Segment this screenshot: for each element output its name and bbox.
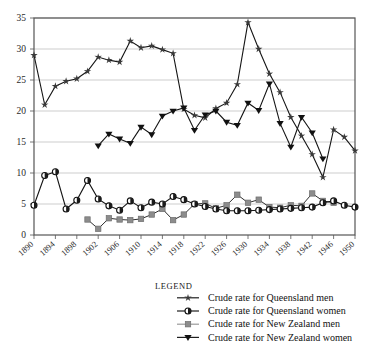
data-point <box>85 217 90 222</box>
x-tick-label-1942: 1942 <box>294 239 313 258</box>
series-star <box>30 18 358 180</box>
data-point <box>138 216 143 221</box>
x-tick-label-1930: 1930 <box>230 239 249 258</box>
data-point <box>235 192 240 197</box>
data-point <box>287 145 294 151</box>
data-point <box>234 80 241 87</box>
data-point <box>309 130 316 136</box>
data-point <box>106 216 111 221</box>
x-axis: 1890189418981902190619101914191819221926… <box>16 235 356 258</box>
data-point <box>276 89 283 96</box>
y-tick-label-5: 5 <box>21 199 26 209</box>
x-tick-label-1910: 1910 <box>123 239 142 258</box>
data-point <box>255 45 262 52</box>
data-point <box>148 132 155 138</box>
data-point <box>266 81 273 87</box>
series-line-star <box>34 22 355 177</box>
data-point <box>308 151 315 158</box>
data-point <box>234 123 241 129</box>
data-point <box>73 75 80 82</box>
data-point <box>41 101 48 108</box>
x-tick-label-1894: 1894 <box>37 239 57 258</box>
y-tick-label-0: 0 <box>21 230 26 240</box>
data-point <box>191 111 198 118</box>
legend-marker-triangle-down-icon <box>184 335 191 341</box>
x-tick-label-1926: 1926 <box>209 239 228 258</box>
legend-item-1[interactable]: Crude rate for Queensland men <box>177 292 334 303</box>
data-point <box>244 101 251 107</box>
data-point <box>181 212 186 217</box>
x-tick-label-1946: 1946 <box>316 239 335 258</box>
y-tick-label-35: 35 <box>17 13 27 23</box>
x-tick-label-1902: 1902 <box>80 239 99 258</box>
data-point <box>128 217 133 222</box>
legend-item-label: Crude rate for Queensland men <box>208 292 334 303</box>
legend-marker-square-icon <box>185 322 190 327</box>
legend-item-4[interactable]: Crude rate for New Zealand women <box>177 332 352 343</box>
crude-rate-line-chart: 0510152025303518901894189819021906191019… <box>0 0 371 348</box>
gridlines <box>34 18 355 204</box>
x-tick-label-1914: 1914 <box>144 239 164 258</box>
x-tick-label-1918: 1918 <box>166 239 185 258</box>
data-point <box>170 217 175 222</box>
data-point <box>137 125 144 131</box>
data-point <box>223 99 230 106</box>
data-point <box>94 53 101 60</box>
x-tick-label-1950: 1950 <box>337 239 356 258</box>
legend-item-2[interactable]: Crude rate for Queensland women <box>177 305 346 316</box>
x-tick-label-1922: 1922 <box>187 239 206 258</box>
x-tick-label-1934: 1934 <box>251 239 271 258</box>
x-tick-label-1898: 1898 <box>59 239 78 258</box>
legend: LEGENDCrude rate for Queensland menCrude… <box>155 281 352 343</box>
data-point <box>191 128 198 134</box>
y-tick-label-15: 15 <box>17 137 27 147</box>
data-point <box>159 114 166 120</box>
legend-item-label: Crude rate for New Zealand men <box>208 318 340 329</box>
data-point <box>298 132 305 139</box>
data-point <box>310 191 315 196</box>
data-point <box>127 141 134 147</box>
data-point <box>341 133 348 140</box>
legend-item-label: Crude rate for New Zealand women <box>208 332 352 343</box>
data-point <box>245 200 250 205</box>
data-point <box>287 113 294 120</box>
x-tick-label-1890: 1890 <box>16 239 35 258</box>
chart-container: 0510152025303518901894189819021906191019… <box>0 0 371 348</box>
y-tick-label-10: 10 <box>17 168 27 178</box>
y-tick-label-30: 30 <box>17 44 27 54</box>
data-point <box>95 143 102 149</box>
data-point <box>148 42 155 49</box>
data-point <box>319 173 326 180</box>
series-triangle-down <box>95 81 327 162</box>
series-line-square <box>88 193 334 228</box>
y-tick-label-20: 20 <box>17 106 27 116</box>
y-tick-label-25: 25 <box>17 75 27 85</box>
data-point <box>266 70 273 77</box>
data-point <box>149 212 154 217</box>
x-tick-label-1938: 1938 <box>273 239 292 258</box>
data-point <box>224 203 229 208</box>
x-tick-label-1906: 1906 <box>102 239 121 258</box>
data-point <box>52 82 59 89</box>
legend-item-3[interactable]: Crude rate for New Zealand men <box>177 318 340 329</box>
data-point <box>319 156 326 162</box>
data-point <box>117 217 122 222</box>
legend-item-label: Crude rate for Queensland women <box>208 305 346 316</box>
series-circle <box>31 169 358 214</box>
data-point <box>277 121 284 127</box>
data-point <box>256 197 261 202</box>
data-point <box>96 226 101 231</box>
legend-title: LEGEND <box>155 281 193 291</box>
